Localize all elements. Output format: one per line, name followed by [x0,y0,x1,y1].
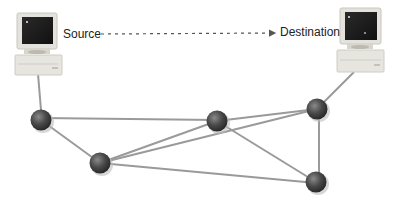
router-node-a [31,110,55,134]
router-node-e [306,172,330,196]
router-node-d [307,99,331,123]
source-computer-icon [15,13,62,75]
link-A-C [41,118,217,120]
router-node-b [90,153,114,177]
link-C-D [217,109,317,121]
links [38,72,354,183]
destination-label: Destination [280,25,340,39]
router-node-c [207,111,231,135]
link-C-E [217,121,316,182]
source-label: Source [63,27,101,41]
route-arrow [101,33,275,34]
link-source-A [38,74,41,110]
link-B-E [100,163,316,183]
link-B-C [100,121,217,163]
destination-computer-icon [337,8,384,72]
